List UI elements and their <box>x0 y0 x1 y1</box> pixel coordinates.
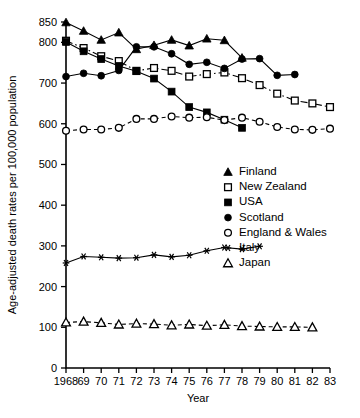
data-point <box>203 34 212 42</box>
chart-container: 0100200300400500600700800850196869707172… <box>0 0 360 418</box>
data-point <box>256 55 263 62</box>
legend-item-new-zealand: New Zealand <box>225 180 307 192</box>
data-point <box>133 115 140 122</box>
legend-marker-open-triangle <box>224 259 233 267</box>
data-point <box>238 322 247 330</box>
data-point <box>97 318 106 326</box>
series-england-wales <box>63 113 334 134</box>
y-tick-label: 800 <box>39 36 57 48</box>
data-point <box>273 322 282 330</box>
data-point <box>256 118 263 125</box>
data-point <box>80 48 87 55</box>
data-point <box>327 104 334 111</box>
series-line <box>66 22 242 57</box>
legend-item-england-wales: England & Wales <box>225 226 327 238</box>
data-point <box>256 82 263 89</box>
data-point <box>133 255 140 261</box>
data-point <box>98 254 105 260</box>
data-point <box>186 104 193 111</box>
legend-marker-filled-circle <box>225 214 232 221</box>
x-tick-label: 82 <box>306 375 318 387</box>
y-tick-label: 500 <box>39 158 57 170</box>
data-point <box>203 114 210 121</box>
data-point <box>186 61 193 68</box>
data-point <box>274 124 281 131</box>
data-point <box>63 73 70 80</box>
data-point <box>98 126 105 133</box>
data-point <box>168 50 175 57</box>
data-point <box>168 88 175 95</box>
y-tick-label: 100 <box>39 321 57 333</box>
data-point <box>291 97 298 104</box>
data-point <box>80 70 87 77</box>
x-tick-label: 78 <box>236 375 248 387</box>
data-point <box>133 43 140 50</box>
data-point <box>98 72 105 79</box>
x-tick-label: 80 <box>271 375 283 387</box>
legend-item-finland: Finland <box>224 165 277 177</box>
data-point <box>80 253 87 259</box>
data-point <box>133 68 140 75</box>
data-point <box>168 113 175 120</box>
x-tick-label: 77 <box>218 375 230 387</box>
data-point <box>63 39 70 46</box>
data-point <box>151 65 158 72</box>
data-point <box>309 100 316 107</box>
data-point <box>274 90 281 97</box>
legend-label: Scotland <box>239 211 284 223</box>
y-tick-label: 200 <box>39 281 57 293</box>
series-finland <box>62 18 247 61</box>
data-point <box>274 72 281 79</box>
data-point <box>167 36 176 44</box>
data-point <box>202 321 211 329</box>
data-point <box>97 36 106 44</box>
axis-titles: YearAge-adjusted death rates per 100,000… <box>6 76 209 404</box>
data-point <box>63 127 70 134</box>
data-point <box>327 125 334 132</box>
x-tick-label: 74 <box>165 375 177 387</box>
data-point <box>79 27 88 35</box>
data-point <box>80 126 87 133</box>
data-point <box>151 75 158 82</box>
data-point <box>220 320 229 328</box>
data-point <box>168 254 175 260</box>
data-point <box>291 126 298 133</box>
legend-item-usa: USA <box>225 195 263 207</box>
x-axis-title: Year <box>187 392 210 404</box>
x-tick-label: 76 <box>201 375 213 387</box>
legend-label: Finland <box>239 165 277 177</box>
data-point <box>185 320 194 328</box>
data-point <box>204 248 211 254</box>
legend-marker-filled-square <box>225 199 232 206</box>
data-point <box>309 126 316 133</box>
data-point <box>151 115 158 122</box>
legend-label: England & Wales <box>239 226 327 238</box>
data-point <box>203 59 210 66</box>
data-point <box>151 252 158 258</box>
x-tick-label: 79 <box>253 375 265 387</box>
legend-marker-open-square <box>225 184 232 191</box>
data-point <box>239 114 246 121</box>
data-point <box>186 73 193 80</box>
data-point <box>115 28 124 36</box>
chart-legend: FinlandNew ZealandUSAScotlandEngland & W… <box>224 165 327 268</box>
legend-label: Italy <box>239 241 260 253</box>
legend-item-japan: Japan <box>224 256 271 268</box>
x-tick-label: 81 <box>289 375 301 387</box>
data-point <box>186 252 193 258</box>
y-tick-label: 300 <box>39 240 57 252</box>
data-point <box>221 65 228 72</box>
x-tick-label: 1968 <box>54 375 78 387</box>
data-point <box>291 71 298 78</box>
data-point <box>239 75 246 82</box>
y-axis-title: Age-adjusted death rates per 100,000 pop… <box>6 76 18 315</box>
data-point <box>239 124 246 131</box>
legend-item-scotland: Scotland <box>225 211 284 223</box>
legend-marker-filled-triangle <box>224 168 233 176</box>
series-group <box>62 18 334 331</box>
legend-marker-open-circle <box>225 229 232 236</box>
y-tick-label: 400 <box>39 199 57 211</box>
x-tick-label: 83 <box>324 375 336 387</box>
data-point <box>79 317 88 325</box>
data-point <box>151 43 158 50</box>
